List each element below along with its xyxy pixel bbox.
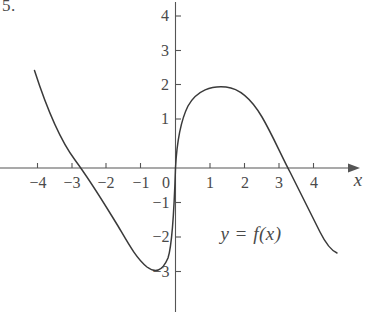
- x-tick-label-neg3: −3: [63, 174, 80, 192]
- y-tick-label-4: 4: [161, 7, 169, 25]
- graph-canvas: [0, 0, 370, 312]
- y-tick-label-neg2: −2: [152, 228, 169, 246]
- x-tick-label-4: 4: [310, 174, 318, 192]
- axes-group: [0, 2, 360, 312]
- x-tick-label-1: 1: [206, 174, 214, 192]
- x-tick-label-3: 3: [275, 174, 283, 192]
- y-tick-label-neg3: −3: [152, 263, 169, 281]
- x-tick-label-neg2: −2: [97, 174, 114, 192]
- function-curve: [35, 71, 338, 271]
- x-tick-label-2: 2: [241, 174, 249, 192]
- x-tick-label-neg4: −4: [29, 174, 46, 192]
- figure-container: 5. −4 −3 −2 −1 0: [0, 0, 370, 312]
- y-tick-label-neg1: −1: [152, 194, 169, 212]
- x-tick-label-neg1: −1: [132, 174, 149, 192]
- y-tick-label-2: 2: [161, 76, 169, 94]
- origin-label: 0: [162, 174, 170, 192]
- x-axis-label: x: [354, 169, 362, 191]
- y-tick-label-3: 3: [161, 42, 169, 60]
- y-tick-label-1: 1: [161, 110, 169, 128]
- curve-equation-label: y = f(x): [220, 223, 281, 245]
